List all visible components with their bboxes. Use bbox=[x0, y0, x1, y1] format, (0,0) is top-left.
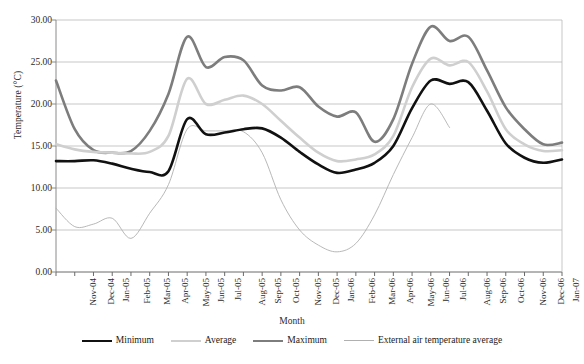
x-axis-tick-label: Mar-06 bbox=[387, 278, 397, 305]
x-axis-tick-label: Dec-05 bbox=[330, 278, 340, 305]
x-axis-tick-label: Apr-06 bbox=[404, 278, 414, 304]
x-axis-tick-label: Feb-05 bbox=[142, 278, 152, 304]
legend-item-average: Average bbox=[171, 336, 236, 346]
legend-swatch-line bbox=[82, 340, 112, 342]
temperature-line-chart: Temperature (°C) 0.005.0010.0015.0020.00… bbox=[0, 0, 584, 364]
x-axis-tick-label: Feb-06 bbox=[367, 278, 377, 304]
x-axis-tick-label: Sep-06 bbox=[498, 278, 508, 304]
legend-item-maximum: Maximum bbox=[253, 336, 327, 346]
legend-label: Average bbox=[205, 336, 236, 346]
x-axis-tick-label: Jan-07 bbox=[571, 278, 581, 302]
x-axis-tick-label: Jun-05 bbox=[216, 278, 226, 303]
x-axis-tick-label: Aug-05 bbox=[256, 278, 266, 306]
x-axis-tick-label: May-06 bbox=[426, 278, 436, 307]
legend-item-minimum: Minimum bbox=[82, 336, 154, 346]
x-axis-tick-label: Nov-04 bbox=[88, 278, 98, 306]
x-axis-tick-label: Apr-05 bbox=[180, 278, 190, 304]
legend-swatch-line bbox=[253, 340, 283, 342]
legend-label: Minimum bbox=[116, 336, 154, 346]
legend-swatch-line bbox=[344, 340, 374, 341]
plot-area bbox=[0, 0, 584, 364]
x-axis-tick-label: Nov-06 bbox=[537, 278, 547, 306]
x-axis-title: Month bbox=[0, 316, 584, 326]
x-axis-tick-label: Nov-05 bbox=[312, 278, 322, 306]
x-axis-tick-label: Jan-05 bbox=[121, 278, 131, 302]
x-axis-tick-label: Jul-05 bbox=[232, 278, 242, 301]
x-axis-tick-label: Oct-05 bbox=[291, 278, 301, 303]
x-axis-tick-label: Aug-06 bbox=[481, 278, 491, 306]
x-axis-tick-label: Dec-04 bbox=[105, 278, 115, 305]
legend-swatch-line bbox=[171, 340, 201, 342]
x-axis-tick-label: Mar-05 bbox=[162, 278, 172, 305]
chart-legend: MinimumAverageMaximumExternal air temper… bbox=[0, 336, 584, 346]
x-axis-tick-label: Sep-05 bbox=[273, 278, 283, 304]
x-axis-tick-label: Jul-06 bbox=[457, 278, 467, 301]
x-axis-tick-label: Jun-06 bbox=[441, 278, 451, 303]
x-axis-tick-label: May-05 bbox=[201, 278, 211, 307]
legend-label: External air temperature average bbox=[378, 336, 502, 346]
legend-item-external-air-temperature-average: External air temperature average bbox=[344, 336, 502, 346]
x-axis-tick-label: Jan-06 bbox=[346, 278, 356, 302]
x-axis-tick-label: Oct-06 bbox=[516, 278, 526, 303]
legend-label: Maximum bbox=[287, 336, 327, 346]
x-axis-tick-label: Dec-06 bbox=[555, 278, 565, 305]
